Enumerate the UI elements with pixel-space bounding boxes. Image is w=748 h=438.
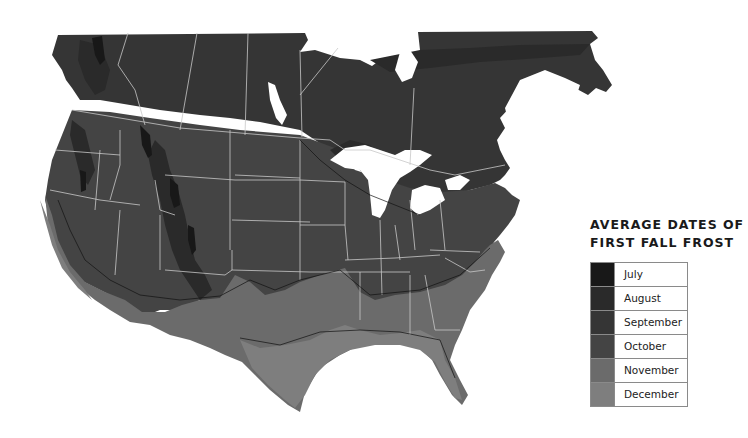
legend-swatch-august [591,287,614,310]
legend-label: September [614,311,687,334]
legend-swatch-november [591,359,614,382]
legend-label: November [614,359,687,382]
legend-item-august: August [591,287,687,311]
legend-title: AVERAGE DATES OF FIRST FALL FROST [590,216,748,252]
legend-label: December [614,383,687,406]
legend-item-september: September [591,311,687,335]
legend-label: October [614,335,687,358]
legend: July August September October November D… [590,262,688,407]
legend-title-line2: FIRST FALL FROST [590,234,748,252]
legend-swatch-july [591,263,614,286]
legend-item-july: July [591,263,687,287]
legend-swatch-september [591,311,614,334]
legend-swatch-december [591,383,614,406]
zone-july-oregon [80,170,86,192]
legend-label: August [614,287,687,310]
legend-item-october: October [591,335,687,359]
legend-swatch-october [591,335,614,358]
legend-title-line1: AVERAGE DATES OF [590,216,748,234]
legend-item-november: November [591,359,687,383]
legend-label: July [614,263,687,286]
legend-item-december: December [591,383,687,407]
